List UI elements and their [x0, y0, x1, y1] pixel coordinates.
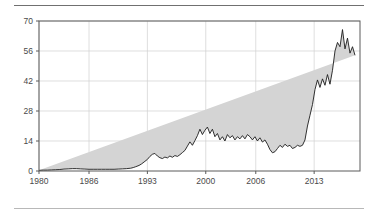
y-axis-tick-label: 42 [24, 76, 34, 86]
x-axis-tick-label: 1980 [30, 176, 49, 186]
x-axis-tick-labels: 198019861993200020062013 [30, 176, 324, 186]
bottom-divider-rule [14, 208, 364, 209]
area-chart-figure: 01428425670 198019861993200020062013 [0, 10, 377, 202]
top-divider-rule [14, 5, 364, 6]
x-axis-tick-label: 2006 [246, 176, 265, 186]
y-axis-tick-labels: 01428425670 [24, 16, 34, 176]
y-axis-tick-label: 56 [24, 46, 34, 56]
y-axis-tick-label: 0 [28, 166, 33, 176]
y-axis-tick-label: 28 [24, 106, 34, 116]
x-axis-tick-label: 2013 [305, 176, 324, 186]
x-axis-tick-label: 1993 [138, 176, 157, 186]
y-axis-tick-label: 14 [24, 136, 34, 146]
chart-canvas: 01428425670 198019861993200020062013 [0, 10, 377, 202]
x-axis-tick-label: 1986 [80, 176, 99, 186]
x-axis-tick-label: 2000 [196, 176, 215, 186]
y-axis-tick-label: 70 [24, 16, 34, 26]
chart-page: 01428425670 198019861993200020062013 [0, 0, 377, 223]
